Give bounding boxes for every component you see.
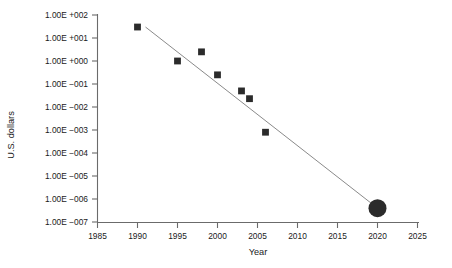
chart-container: 1.00E +0021.00E +0011.00E +0001.00E −001… [0, 0, 452, 268]
y-tick-label: 1.00E −002 [45, 102, 88, 112]
y-tick-label: 1.00E −007 [45, 217, 88, 227]
x-tick-label: 2020 [368, 231, 387, 241]
data-point-square [246, 95, 253, 102]
y-tick-label: 1.00E +000 [45, 56, 88, 66]
x-tick-label: 2005 [248, 231, 267, 241]
y-axis-title: U.S. dollars [6, 111, 16, 159]
data-point-square [134, 24, 141, 31]
y-axis-ticks: 1.00E +0021.00E +0011.00E +0001.00E −001… [45, 10, 98, 227]
y-tick-label: 1.00E −006 [45, 194, 88, 204]
x-tick-label: 2025 [408, 231, 427, 241]
y-tick-label: 1.00E +001 [45, 33, 88, 43]
data-markers-group [134, 24, 386, 218]
y-tick-label: 1.00E +002 [45, 10, 88, 20]
x-axis-title: Year [249, 247, 268, 257]
x-tick-label: 2015 [328, 231, 347, 241]
x-tick-label: 2000 [208, 231, 227, 241]
data-point-square [262, 129, 269, 136]
y-tick-label: 1.00E −001 [45, 79, 88, 89]
y-tick-label: 1.00E −004 [45, 148, 88, 158]
trend-line-group [146, 27, 378, 208]
x-axis-ticks: 198519901995200020052010201520202025 [88, 223, 427, 242]
y-tick-label: 1.00E −005 [45, 171, 88, 181]
x-tick-label: 1995 [168, 231, 187, 241]
data-point-square [198, 48, 205, 55]
data-point-square [214, 71, 221, 78]
data-point-circle [369, 199, 387, 217]
x-tick-label: 1990 [128, 231, 147, 241]
data-point-square [238, 88, 245, 95]
data-point-square [174, 58, 181, 65]
x-tick-label: 1985 [88, 231, 107, 241]
scatter-plot: 1.00E +0021.00E +0011.00E +0001.00E −001… [0, 0, 452, 268]
axes-group [97, 14, 419, 223]
x-tick-label: 2010 [288, 231, 307, 241]
trend-line [146, 27, 378, 208]
y-tick-label: 1.00E −003 [45, 125, 88, 135]
